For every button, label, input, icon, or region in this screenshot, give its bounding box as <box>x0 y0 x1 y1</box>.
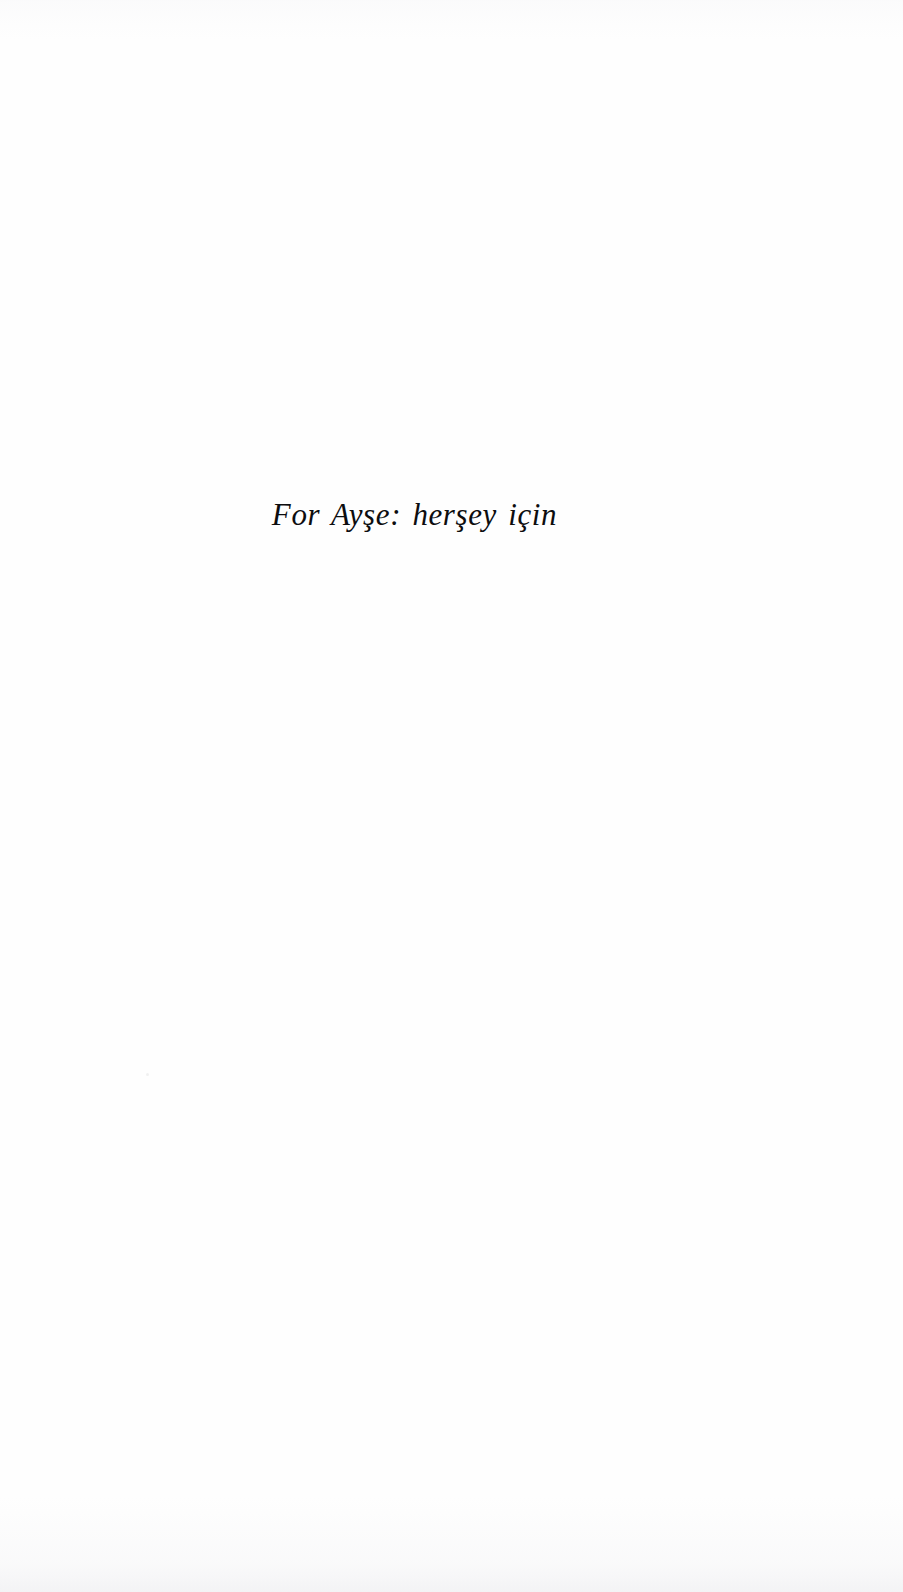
book-page: For Ayşe: herşey için <box>0 0 903 1592</box>
scan-artifact-top <box>0 0 903 40</box>
dedication-block: For Ayşe: herşey için <box>0 496 903 534</box>
scan-speck <box>146 1073 149 1076</box>
scan-artifact-bottom <box>0 1496 903 1592</box>
dedication-text: For Ayşe: herşey için <box>272 496 557 534</box>
